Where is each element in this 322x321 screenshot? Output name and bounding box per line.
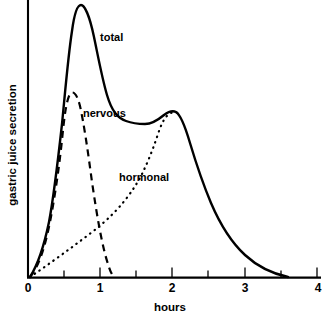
x-tick-label-3: 3	[242, 281, 249, 295]
x-tick-label-1: 1	[97, 281, 104, 295]
y-axis-title: gastric juice secretion	[6, 84, 18, 205]
chart-figure: 0 1 2 3 4 total nervous hormonal hours g…	[0, 0, 322, 321]
chart-plot-area: 0 1 2 3 4 total nervous hormonal hours g…	[0, 0, 322, 321]
series-label-nervous: nervous	[83, 107, 126, 119]
series-label-hormonal: hormonal	[119, 171, 169, 183]
x-tick-label-2: 2	[169, 281, 176, 295]
x-tick-label-0: 0	[25, 281, 32, 295]
x-tick-label-4: 4	[315, 281, 322, 295]
series-line-total	[30, 5, 288, 277]
x-axis-title: hours	[154, 301, 186, 313]
series-label-total: total	[100, 31, 123, 43]
